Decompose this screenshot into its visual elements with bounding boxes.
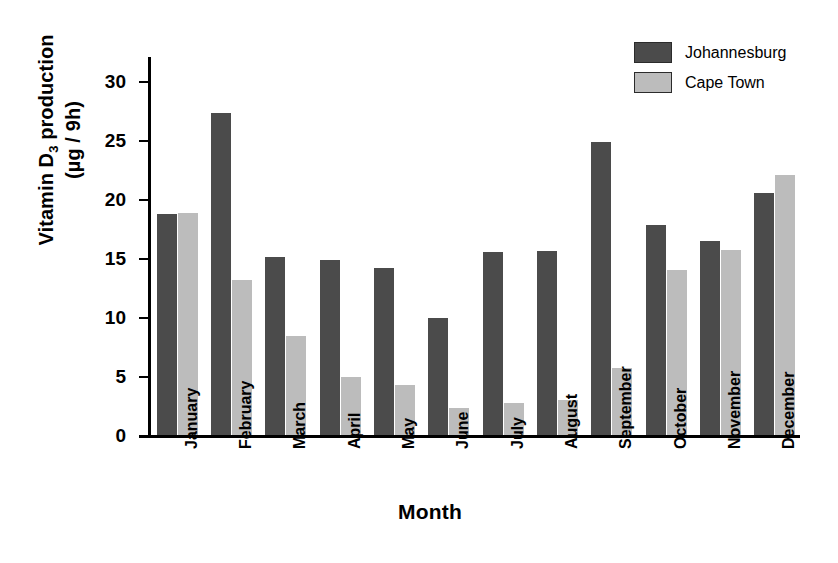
y-axis-title-rest: production (35, 34, 57, 145)
y-tick-mark: 15 (139, 258, 148, 261)
y-axis-title-units: (µg / 9h) (62, 101, 85, 179)
x-tick-label: March (291, 402, 309, 449)
x-tick-label: April (346, 413, 364, 449)
y-tick-mark: 25 (139, 140, 148, 143)
bar-group (646, 57, 687, 435)
bar-group (428, 57, 469, 435)
bar (211, 113, 231, 435)
y-tick-label: 10 (105, 307, 126, 329)
bar (157, 214, 177, 435)
plot-area: 051015202530 JanuaryFebruaryMarchAprilMa… (148, 57, 800, 435)
vitamin-d-bar-chart: Vitamin D3 production (µg / 9h) 05101520… (0, 0, 838, 563)
x-tick-label: June (454, 412, 472, 449)
y-tick-mark: 30 (139, 81, 148, 84)
legend-label-cape-town: Cape Town (685, 74, 765, 92)
y-tick-mark: 0 (139, 435, 148, 438)
x-tick-label: October (672, 388, 690, 449)
legend-swatch-cape-town (634, 72, 672, 93)
y-tick-label: 25 (105, 130, 126, 152)
bar (700, 241, 720, 435)
x-tick-label: August (563, 394, 581, 449)
bar (265, 257, 285, 435)
y-tick-label: 5 (115, 366, 126, 388)
legend-item-cape-town: Cape Town (634, 72, 786, 93)
y-tick-label: 20 (105, 189, 126, 211)
legend-label-johannesburg: Johannesburg (685, 44, 786, 62)
bar (428, 318, 448, 435)
x-tick-label: February (237, 381, 255, 449)
y-tick-mark: 5 (139, 376, 148, 379)
x-tick-label: May (400, 418, 418, 449)
bar-group (483, 57, 524, 435)
bar-group (320, 57, 361, 435)
bar (320, 260, 340, 435)
y-tick-mark: 20 (139, 199, 148, 202)
y-axis-title-line1: Vitamin D3 production (35, 34, 62, 245)
legend-item-johannesburg: Johannesburg (634, 42, 786, 63)
bar-group (374, 57, 415, 435)
bar (646, 225, 666, 435)
bar-group (211, 57, 252, 435)
legend: Johannesburg Cape Town (634, 42, 786, 102)
y-axis-title-subscript: 3 (46, 145, 61, 152)
bar-group (265, 57, 306, 435)
bar-group (157, 57, 198, 435)
x-tick-label: January (183, 388, 201, 449)
bar (754, 193, 774, 435)
y-tick-label: 0 (115, 425, 126, 447)
bar (374, 268, 394, 435)
legend-swatch-johannesburg (634, 42, 672, 63)
x-tick-label: November (726, 371, 744, 449)
y-axis-line (148, 57, 151, 435)
x-tick-label: July (509, 417, 527, 449)
bar (591, 142, 611, 435)
x-tick-label: December (780, 372, 798, 449)
y-tick-label: 15 (105, 248, 126, 270)
y-axis-title: Vitamin D3 production (µg / 9h) (30, 0, 90, 305)
y-tick-mark: 10 (139, 317, 148, 320)
x-axis-title: Month (398, 500, 462, 524)
bar (537, 251, 557, 435)
bar-group (537, 57, 578, 435)
x-tick-label: September (617, 366, 635, 449)
y-tick-label: 30 (105, 71, 126, 93)
y-axis-title-base: Vitamin D (35, 153, 57, 246)
bar (483, 252, 503, 435)
